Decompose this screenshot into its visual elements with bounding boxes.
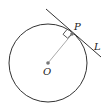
point-P <box>70 32 74 36</box>
point-O <box>46 61 50 65</box>
tangent-diagram: P L O <box>0 0 108 111</box>
label-L: L <box>93 41 101 52</box>
tangent-line-L <box>46 9 101 57</box>
label-P: P <box>73 21 81 32</box>
radius-OP <box>48 34 72 63</box>
label-O: O <box>43 66 51 77</box>
